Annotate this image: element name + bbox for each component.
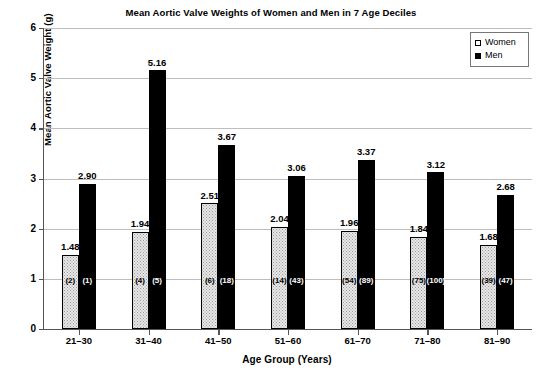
legend-item-women: Women	[475, 36, 524, 49]
bar-count-label: (89)	[359, 277, 373, 285]
bar-value-label: 2.68	[496, 182, 515, 192]
legend-label-men: Men	[485, 51, 503, 60]
y-axis-tick-label: 1	[30, 274, 36, 284]
x-axis-title: Age Group (Years)	[43, 354, 531, 365]
bar-count-label: (100)	[427, 277, 446, 285]
bar-value-label: 1.96	[340, 218, 359, 228]
bar-value-label: 3.67	[218, 132, 237, 142]
x-axis-tick-label: 71–80	[414, 335, 440, 346]
bar-value-label: 1.94	[131, 219, 150, 229]
bars-container: 2.04(14)3.06(43)	[253, 28, 323, 329]
x-axis-tick-label: 31–40	[135, 335, 161, 346]
bar-women	[480, 245, 497, 329]
x-axis-tick-label: 51–60	[275, 335, 301, 346]
bar-count-label: (5)	[152, 277, 162, 285]
bar-value-label: 1.84	[410, 224, 429, 234]
bars-container: 1.48(2)2.90(1)	[44, 28, 114, 329]
legend: Women Men	[470, 32, 529, 67]
bar-count-label: (1)	[82, 277, 92, 285]
bar-men	[218, 145, 235, 329]
bar-count-label: (6)	[205, 277, 215, 285]
bar-count-label: (4)	[135, 277, 145, 285]
bar-count-label: (14)	[272, 277, 286, 285]
x-axis-tick-label: 21–30	[66, 335, 92, 346]
bars-container: 1.68(39)2.68(47)	[462, 28, 532, 329]
y-axis-tick-label: 0	[30, 324, 36, 334]
bar-group: 21–301.48(2)2.90(1)	[44, 28, 114, 329]
bar-count-label: (54)	[342, 277, 356, 285]
legend-label-women: Women	[485, 38, 516, 47]
bar-women	[201, 203, 218, 329]
bar-value-label: 2.04	[270, 214, 289, 224]
bar-men	[427, 172, 444, 329]
y-axis-tick	[39, 329, 44, 330]
bar-men	[79, 184, 96, 329]
y-axis-tick-label: 5	[30, 73, 36, 83]
y-axis-tick-label: 2	[30, 224, 36, 234]
bar-count-label: (39)	[482, 277, 496, 285]
bar-value-label: 1.68	[479, 232, 498, 242]
bar-group: 31–401.94(4)5.16(5)	[114, 28, 184, 329]
bar-count-label: (2)	[65, 277, 75, 285]
bar-value-label: 3.12	[427, 160, 446, 170]
bar-value-label: 3.06	[287, 163, 306, 173]
bar-value-label: 2.90	[78, 171, 97, 181]
bar-men	[149, 70, 166, 329]
x-axis-tick-label: 81–90	[484, 335, 510, 346]
bar-value-label: 1.48	[61, 242, 80, 252]
bar-group: 81–901.68(39)2.68(47)	[462, 28, 532, 329]
bar-group: 41–502.51(6)3.67(18)	[183, 28, 253, 329]
legend-swatch-women-icon	[475, 40, 481, 46]
bars-container: 1.94(4)5.16(5)	[114, 28, 184, 329]
bar-value-label: 3.37	[357, 147, 376, 157]
bars-container: 2.51(6)3.67(18)	[183, 28, 253, 329]
x-axis-tick-label: 61–70	[344, 335, 370, 346]
chart-title: Mean Aortic Valve Weights of Women and M…	[0, 7, 542, 18]
bar-group: 51–602.04(14)3.06(43)	[253, 28, 323, 329]
legend-swatch-men-icon	[475, 53, 481, 59]
bar-count-label: (47)	[499, 277, 513, 285]
bar-group: 71–801.84(75)3.12(100)	[393, 28, 463, 329]
legend-item-men: Men	[475, 49, 524, 62]
chart-figure: Mean Aortic Valve Weights of Women and M…	[0, 0, 542, 374]
bar-men	[288, 176, 305, 330]
bar-count-label: (75)	[412, 277, 426, 285]
x-axis-tick-label: 41–50	[205, 335, 231, 346]
y-axis-tick-label: 4	[30, 123, 36, 133]
bars-container: 1.84(75)3.12(100)	[393, 28, 463, 329]
bar-value-label: 5.16	[148, 58, 167, 68]
bar-count-label: (43)	[289, 277, 303, 285]
y-axis-tick-label: 6	[30, 23, 36, 33]
y-axis-tick-label: 3	[30, 174, 36, 184]
bar-group: 61–701.96(54)3.37(89)	[323, 28, 393, 329]
bar-value-label: 2.51	[201, 191, 220, 201]
bar-men	[358, 160, 375, 329]
bar-count-label: (18)	[220, 277, 234, 285]
bar-women	[62, 255, 79, 329]
plot-area: Mean Aortic Valve Weight (g) 6543210 21–…	[43, 28, 532, 330]
bars-container: 1.96(54)3.37(89)	[323, 28, 393, 329]
bar-men	[497, 195, 514, 329]
